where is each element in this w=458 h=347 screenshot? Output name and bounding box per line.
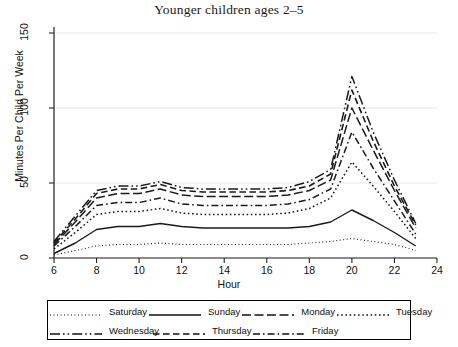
legend-label-friday: Friday [312,325,338,336]
legend-item-wednesday[interactable]: Wednesday [48,325,151,336]
series-line-wednesday [54,77,416,242]
legend-key-monday [240,306,296,316]
series-line-tuesday [54,162,416,249]
legend-item-tuesday[interactable]: Tuesday [335,306,430,317]
legend-item-saturday[interactable]: Saturday [48,306,147,317]
series-line-sunday [54,210,416,254]
legend-key-friday [251,325,307,335]
legend-label-thursday: Thursday [212,325,252,336]
legend-key-wednesday [48,325,104,335]
chart-figure: Younger children ages 2–5 Minutes Per Ch… [0,0,458,347]
series-line-saturday [54,239,416,256]
legend-label-tuesday: Tuesday [396,306,432,317]
legend-label-saturday: Saturday [109,306,147,317]
legend-label-sunday: Sunday [208,306,240,317]
legend-row-2: WednesdayThursdayFriday [48,320,410,340]
legend-key-sunday [147,306,203,316]
legend-key-saturday [48,306,104,316]
legend-key-tuesday [335,306,391,316]
legend-row-1: SaturdaySundayMondayTuesday [48,301,410,321]
legend-key-thursday [151,325,207,335]
chart-legend: SaturdaySundayMondayTuesday WednesdayThu… [47,300,411,340]
legend-item-monday[interactable]: Monday [240,306,335,317]
legend-item-sunday[interactable]: Sunday [147,306,240,317]
plot-area [0,0,458,347]
legend-item-thursday[interactable]: Thursday [151,325,251,336]
series-line-thursday [54,90,416,243]
series-line-monday [54,108,416,245]
legend-label-monday: Monday [301,306,335,317]
legend-item-friday[interactable]: Friday [251,325,346,336]
